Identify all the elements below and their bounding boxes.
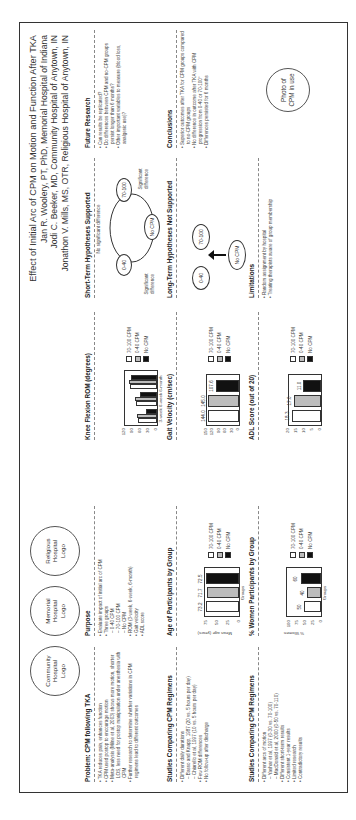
y-tick: 90 [215, 428, 220, 433]
bar-70-100 [206, 601, 239, 612]
section-problem: Problem: CPM following TKA • TKA reduces… [84, 647, 140, 782]
y-tick: 75 [294, 620, 299, 625]
bullet: • Meta-analysis (Milne et al, 2003) show… [110, 647, 128, 782]
legend: 70-100 CPM 0-40 CPM No CPM [126, 327, 152, 362]
bullet: • Differences persisted for 6 months [204, 30, 210, 148]
chart-adl-score: ADL Score (out of 20) 0 5 10 15 20 18.3 … [248, 312, 328, 440]
chart-title: ADL Score (out of 20) [248, 312, 259, 440]
section-heading: Conclusions [166, 30, 177, 148]
bullet: • Other important variables to measure (… [116, 30, 128, 148]
y-tick: 10 [301, 428, 306, 433]
section-short-term-hypotheses: Short-Term Hypotheses Supported No signi… [84, 158, 164, 298]
y-tick: 15 [293, 428, 298, 433]
bar-value: 73.2 [198, 600, 203, 614]
bar-value: 72.5 [198, 572, 203, 586]
section-heading: Studies Comparing CPM Regimens [166, 647, 177, 782]
note-significant-left: Significant difference [144, 270, 155, 298]
bullet: • ADL score [140, 506, 146, 636]
y-tick: 20 [285, 428, 290, 433]
node-0-40: 0-40 [116, 254, 132, 276]
node-no-cpm: No CPM [144, 214, 160, 240]
section-heading: Future Research [84, 30, 95, 148]
poster: Effect of Initial Arc of CPM on Motion a… [19, 22, 348, 793]
y-tick: 60 [222, 428, 227, 433]
section-long-term-hypotheses: Long-Term Hypotheses Not Supported 0-40 … [166, 158, 246, 298]
section-conclusions: Conclusions • Superior outcomes after TK… [166, 30, 210, 148]
bar-value: 50 [297, 600, 302, 614]
bar-70-100 [304, 601, 321, 612]
bar-value: 11.0 [297, 379, 302, 393]
x-axis-label: Groups [322, 569, 327, 617]
bullet: • Do differences between CPM and no-CPM … [104, 30, 116, 148]
memorial-hospital-logo: MemorialHospitalLogo [30, 586, 80, 636]
plot-area [124, 370, 158, 426]
y-tick: 90 [129, 428, 134, 433]
bullet: • Superior outcomes after TKA for CPM gr… [180, 30, 192, 148]
section-heading: Short-Term Hypotheses Supported [84, 158, 95, 298]
x-axis-labels: 3-week 6-week 6-month [158, 372, 163, 426]
y-tick: 0 [317, 428, 322, 430]
section-studies-duration: Studies Comparing CPM Regimens • Differe… [166, 647, 210, 782]
y-tick: 0 [153, 428, 158, 430]
arrow-icon [208, 240, 228, 270]
y-tick: 100 [286, 620, 291, 627]
section-heading: Purpose [84, 506, 95, 636]
y-tick: 25 [225, 620, 230, 625]
bar-value: 71.7 [198, 586, 203, 600]
y-tick: 50 [214, 620, 219, 625]
poster-title: Effect of Initial Arc of CPM on Motion a… [28, 35, 39, 282]
photo-placeholder: Photo ofCPM in use [266, 68, 310, 112]
author-2: Jodi C. Beeker, MD, Community Hospital o… [49, 35, 60, 282]
bar-no-cpm [216, 380, 239, 392]
section-heading: Problem: CPM following TKA [84, 647, 95, 782]
bar-value: 40 [300, 586, 305, 600]
bar-70-100 [208, 410, 239, 422]
y-tick: 120 [121, 428, 126, 435]
chart-title: Age of Participants by Group [166, 506, 177, 636]
plot-area: 50 40 60 [286, 567, 322, 617]
bullet: • No follow-up after discharge [204, 647, 210, 782]
section-purpose: Purpose • Evaluate impact of initial arc… [84, 506, 146, 636]
author-1: Jan R. Woolery, PT, PhD, Memorial Hospit… [39, 35, 50, 282]
y-tick: 0 [236, 620, 241, 622]
plot-area: 73.2 71.7 72.5 [204, 567, 240, 617]
y-tick: 5 [309, 428, 314, 430]
y-tick: 120 [209, 428, 214, 435]
y-tick: 30 [228, 428, 233, 433]
community-hospital-logo: CommunityHospitalLogo [30, 646, 80, 696]
section-studies-arcs: Studies Comparing CPM Regimens • Differe… [248, 647, 304, 782]
chart-age: Age of Participants by Group Mean age (y… [166, 506, 246, 636]
y-tick: 50 [302, 620, 307, 625]
bullet: • Treating therapists aware of group mem… [268, 158, 274, 298]
y-axis-label: % Women [284, 631, 304, 636]
title-block: Effect of Initial Arc of CPM on Motion a… [28, 35, 70, 282]
bullet: • Contradictory results [298, 647, 304, 782]
author-3: Jonathon V. Mills, MS, OTR, Religious Ho… [60, 35, 71, 282]
y-tick: 150 [202, 428, 207, 435]
bullet: • Further research to determine whether … [128, 647, 140, 782]
legend: 70-100 CPM 0-40 CPM No CPM [290, 523, 316, 558]
node-no-cpm: No CPM [228, 240, 246, 270]
bar-value: 17.0 [287, 394, 292, 408]
chart-title: Knee Flexion ROM (degrees) [84, 312, 95, 440]
y-axis-label: Mean age (years) [198, 631, 232, 636]
bar-0-40 [307, 587, 321, 598]
bar-no-cpm [206, 573, 239, 584]
section-heading: Limitations [248, 158, 259, 298]
bar-0-40 [207, 587, 239, 598]
chart-title: Gait Velocity (cm/sec) [166, 312, 177, 440]
bar-value: 144.0 [201, 409, 206, 423]
section-limitations: Limitations • Random assignment by hospi… [248, 158, 274, 298]
plot-area: 18.3 17.0 11.0 [288, 374, 322, 426]
note-no-significant: No significant difference [96, 204, 102, 254]
y-tick: 25 [310, 620, 315, 625]
bar-value: 107.6 [209, 379, 214, 393]
x-axis-label: Groups [240, 569, 245, 617]
y-tick: 60 [137, 428, 142, 433]
plot-area: 144.0 145.0 107.6 [206, 374, 240, 426]
legend: 70-100 CPM 0-40 CPM No CPM [208, 327, 234, 362]
bar-value: 18.3 [285, 409, 290, 423]
chart-women: % Women Participants by Group % Women 0 … [248, 506, 328, 636]
bar-no-cpm [301, 573, 321, 584]
y-tick: 30 [145, 428, 150, 433]
